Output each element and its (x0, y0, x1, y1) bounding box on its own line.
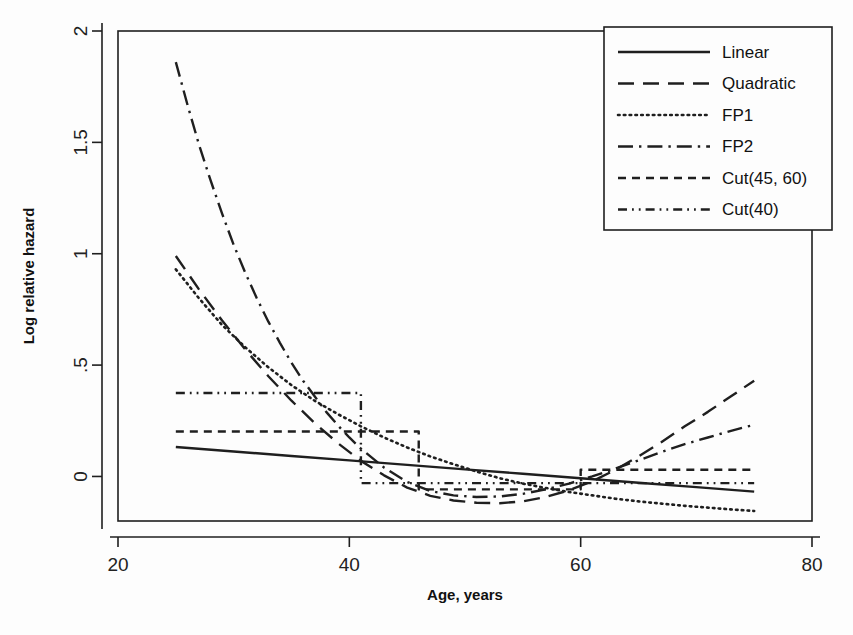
y-axis-tick-label: 1 (70, 248, 91, 259)
y-axis-tick-label: 2 (70, 26, 91, 37)
x-axis-tick-label: 20 (107, 554, 128, 575)
x-axis-tick-label: 80 (801, 554, 822, 575)
legend-item-label: FP2 (722, 137, 753, 156)
y-axis-tick-label: 0 (70, 471, 91, 482)
chart-canvas: 20406080 0.511.52 LinearQuadraticFP1FP2C… (0, 0, 853, 635)
x-axis-tick-label: 60 (570, 554, 591, 575)
y-axis-title: Log relative hazard (20, 208, 37, 345)
y-axis-tick-label: .5 (70, 357, 91, 373)
chart-legend: LinearQuadraticFP1FP2Cut(45, 60)Cut(40) (604, 27, 832, 230)
legend-border (604, 27, 832, 230)
y-axis-tick-label: 1.5 (70, 129, 91, 155)
legend-item-label: FP1 (722, 106, 753, 125)
legend-item-label: Linear (722, 43, 770, 62)
x-axis-title: Age, years (427, 586, 503, 603)
legend-item-label: Cut(45, 60) (722, 169, 807, 188)
chart-figure: 20406080 0.511.52 LinearQuadraticFP1FP2C… (0, 0, 853, 635)
x-axis-tick-label: 40 (339, 554, 360, 575)
legend-item-label: Cut(40) (722, 200, 779, 219)
legend-item-label: Quadratic (722, 74, 796, 93)
